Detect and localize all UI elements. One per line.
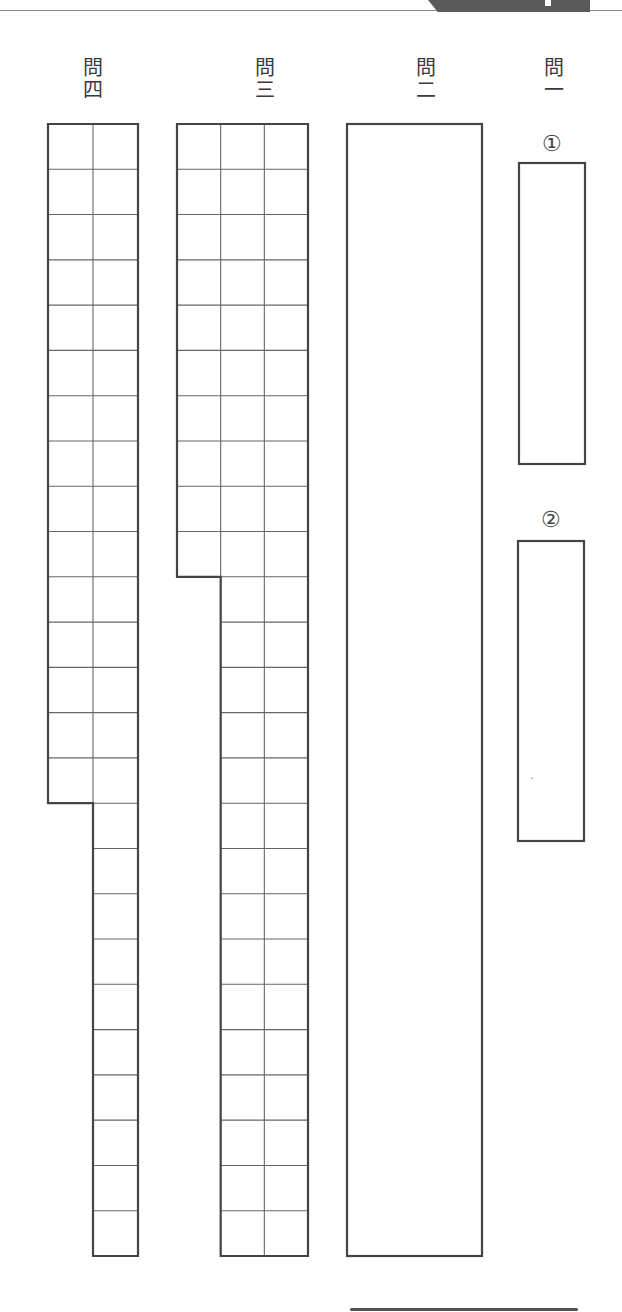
- question-2-answer-box: [347, 124, 482, 1256]
- bottom-rule: [350, 1308, 578, 1311]
- question-1-sub-1-label: ①: [532, 132, 572, 156]
- question-3-answer-grid: [177, 124, 308, 1256]
- answer-sheet-drawing: [0, 0, 622, 1312]
- question-1-sub-2-label: ②: [531, 508, 571, 532]
- question-1-sub-1-answer-box: [519, 163, 585, 464]
- question-4-answer-grid: [48, 124, 138, 1256]
- stray-mark: [531, 777, 533, 779]
- question-1-sub-2-answer-box: [518, 541, 584, 841]
